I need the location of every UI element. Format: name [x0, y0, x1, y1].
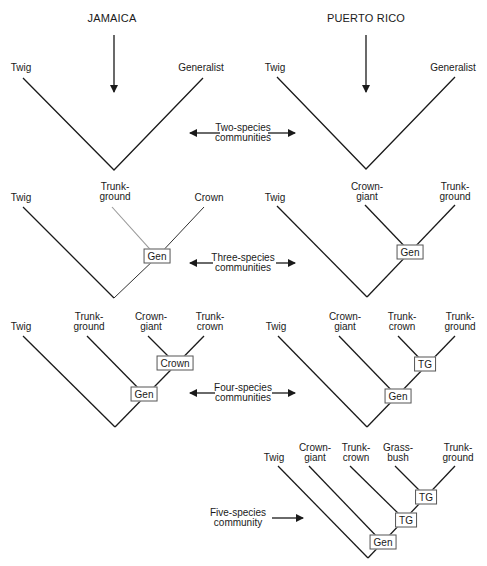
tip-label: Crown- giant	[329, 312, 361, 332]
tip-label: Crown	[195, 193, 224, 203]
row-label-five-species: Five-species community	[210, 508, 266, 528]
row-label-three-species: Three-species communities	[211, 253, 274, 273]
node-gen: Gen	[397, 245, 424, 260]
node-crown: Crown	[157, 356, 194, 371]
tip-label: Crown- giant	[351, 182, 383, 202]
tip-label: Trunk- crown	[196, 312, 225, 332]
puerto-rico-title: PUERTO RICO	[327, 12, 405, 24]
tip-label: Trunk- ground	[439, 182, 470, 202]
phylogeny-diagram	[0, 0, 487, 566]
tip-label: Trunk- crown	[342, 443, 371, 463]
node-tg: TG	[415, 490, 437, 505]
node-tg: TG	[395, 513, 417, 528]
node-gen: Gen	[385, 389, 412, 404]
tip-label: Twig	[11, 322, 32, 332]
node-gen: Gen	[144, 249, 171, 264]
row-label-two-species: Two-species communities	[215, 123, 271, 143]
tip-label: Twig	[265, 63, 286, 73]
jamaica-two-tree	[23, 78, 203, 170]
tip-label: Generalist	[430, 63, 476, 73]
tip-label: Trunk- ground	[444, 312, 475, 332]
tip-label: Crown- giant	[135, 312, 167, 332]
tip-label: Trunk- ground	[73, 312, 104, 332]
node-gen: Gen	[370, 535, 397, 550]
tip-label: Grass- bush	[383, 443, 413, 463]
tip-label: Trunk- crown	[388, 312, 417, 332]
tip-label: Trunk- ground	[99, 182, 130, 202]
row-label-four-species: Four-species communities	[214, 383, 272, 403]
tip-label: Trunk- ground	[442, 443, 473, 463]
tip-label: Twig	[265, 193, 286, 203]
tip-label: Generalist	[178, 63, 224, 73]
node-gen: Gen	[131, 387, 158, 402]
node-tg: TG	[414, 357, 436, 372]
tip-label: Crown- giant	[299, 443, 331, 463]
tip-label: Twig	[264, 453, 285, 463]
tip-label: Twig	[11, 63, 32, 73]
tip-label: Twig	[11, 193, 32, 203]
tip-label: Twig	[266, 322, 287, 332]
jamaica-title: JAMAICA	[87, 12, 136, 24]
